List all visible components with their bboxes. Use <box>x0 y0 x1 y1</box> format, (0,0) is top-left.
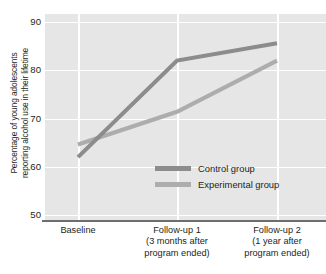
legend-item-experimental-group: Experimental group <box>155 178 279 191</box>
series-line-control-group <box>78 43 277 157</box>
x-axis-rule <box>42 220 326 222</box>
legend-label-experimental-group: Experimental group <box>198 179 279 190</box>
x-tick-label-2-line-1: Follow-up 2 <box>244 225 309 236</box>
chart-figure: Percentage of young adolescents reportin… <box>0 0 326 274</box>
y-tick-label-70: 70 <box>30 114 41 124</box>
legend-swatch-control-group <box>155 166 191 170</box>
legend-label-control-group: Control group <box>198 163 255 174</box>
x-tick-label-1-line-2: (3 months after <box>144 236 209 247</box>
chart-legend: Control group Experimental group <box>155 162 279 191</box>
y-axis-title-line-1: Percentage of young adolescents <box>9 48 20 178</box>
x-tick-label-1: Follow-up 1(3 months afterprogram ended) <box>144 225 209 259</box>
y-tick-label-90: 90 <box>30 17 41 27</box>
x-tick-label-2-line-2: (1 year after <box>244 236 309 247</box>
legend-item-control-group: Control group <box>155 162 279 175</box>
y-tick-label-60: 60 <box>30 162 41 172</box>
legend-swatch-experimental-group <box>155 182 191 186</box>
x-tick-label-1-line-1: Follow-up 1 <box>144 225 209 236</box>
y-tick-label-50: 50 <box>30 210 41 220</box>
plot-area: 5060708090 Control group Experimental gr… <box>45 14 326 220</box>
x-tick-label-0-line-1: Baseline <box>60 225 95 236</box>
series-line-experimental-group <box>78 61 277 145</box>
x-tick-label-0: Baseline <box>60 225 95 236</box>
x-axis-tick-labels: BaselineFollow-up 1(3 months afterprogra… <box>45 225 326 274</box>
y-tick-label-80: 80 <box>30 65 41 75</box>
x-tick-label-2-line-3: program ended) <box>244 248 309 259</box>
x-tick-label-2: Follow-up 2(1 year afterprogram ended) <box>244 225 309 259</box>
x-tick-label-1-line-3: program ended) <box>144 248 209 259</box>
